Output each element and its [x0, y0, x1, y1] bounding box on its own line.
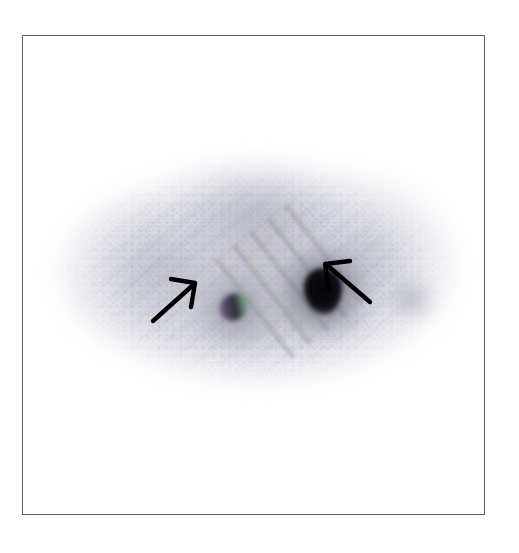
figure-root	[0, 0, 519, 553]
lesion-far-right-faint	[385, 278, 437, 320]
scan-canvas	[23, 36, 484, 514]
image-frame	[22, 35, 485, 515]
